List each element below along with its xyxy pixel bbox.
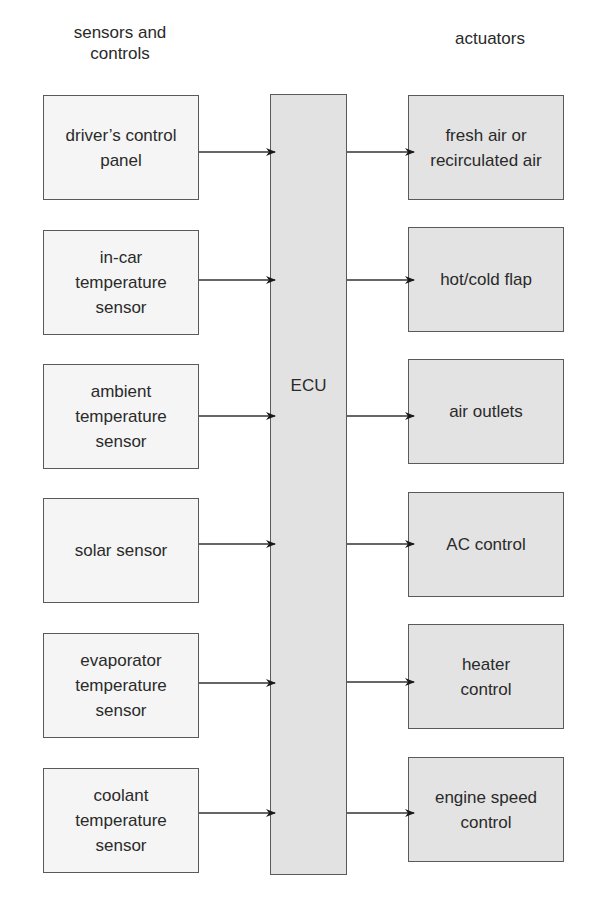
connection-arrows <box>0 0 590 914</box>
